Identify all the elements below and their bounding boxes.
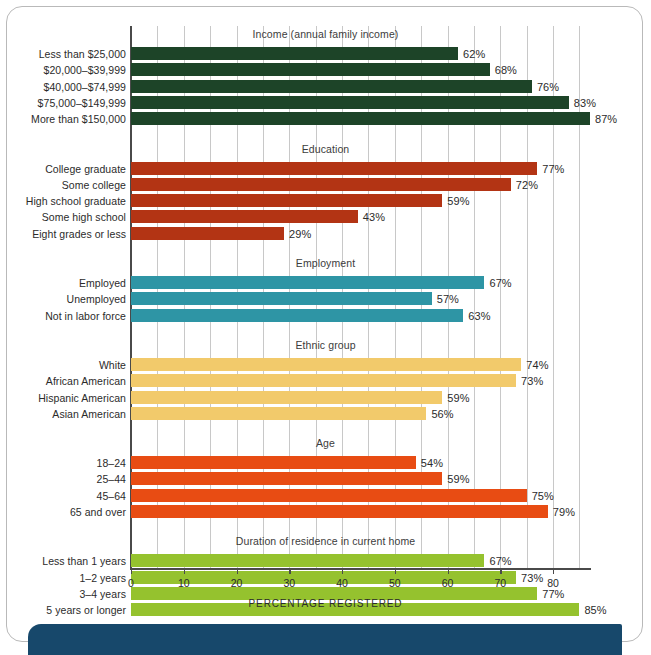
section-heading-employment: Employment <box>0 257 651 269</box>
category-label: Hispanic American <box>2 392 126 404</box>
bar <box>131 162 537 175</box>
category-label: $20,000–$39,999 <box>2 64 126 76</box>
x-tick-label: 80 <box>547 577 559 589</box>
x-tick-label: 40 <box>336 577 348 589</box>
bar-value-label: 54% <box>421 457 443 469</box>
category-label: Not in labor force <box>2 310 126 322</box>
section-heading-age: Age <box>0 437 651 449</box>
bar-value-label: 29% <box>289 228 311 240</box>
bar-value-label: 59% <box>447 392 469 404</box>
x-tick-mark <box>395 569 396 574</box>
bar <box>131 489 527 502</box>
category-label: $40,000–$74,999 <box>2 81 126 93</box>
bar <box>131 391 442 404</box>
category-label: Some college <box>2 179 126 191</box>
bar <box>131 358 521 371</box>
category-label: White <box>2 359 126 371</box>
bar <box>131 96 569 109</box>
x-tick-mark <box>448 569 449 574</box>
category-label: College graduate <box>2 163 126 175</box>
bar-value-label: 77% <box>542 163 564 175</box>
category-label: Eight grades or less <box>2 228 126 240</box>
bar <box>131 292 432 305</box>
x-tick-label: 30 <box>283 577 295 589</box>
category-label: 45–64 <box>2 490 126 502</box>
x-tick-label: 20 <box>231 577 243 589</box>
category-label: Less than 1 years <box>2 555 126 567</box>
bar <box>131 112 590 125</box>
bar <box>131 194 442 207</box>
x-axis-title: PERCENTAGE REGISTERED <box>0 598 651 609</box>
category-label: African American <box>2 375 126 387</box>
bar-value-label: 75% <box>532 490 554 502</box>
bar-value-label: 59% <box>447 195 469 207</box>
category-label: 25–44 <box>2 473 126 485</box>
category-label: High school graduate <box>2 195 126 207</box>
bar-value-label: 76% <box>537 81 559 93</box>
bar <box>131 210 358 223</box>
category-label: Asian American <box>2 408 126 420</box>
category-label-column: Less than $25,000$20,000–$39,999$40,000–… <box>0 0 126 580</box>
x-tick-label: 10 <box>178 577 190 589</box>
category-label: $75,000–$149,999 <box>2 97 126 109</box>
x-tick-mark <box>342 569 343 574</box>
section-heading-ethnic-group: Ethnic group <box>0 339 651 351</box>
bar-value-label: 74% <box>526 359 548 371</box>
bar-value-label: 83% <box>574 97 596 109</box>
bar-value-label: 62% <box>463 48 485 60</box>
bar-value-label: 68% <box>495 64 517 76</box>
bar-value-label: 72% <box>516 179 538 191</box>
category-label: Employed <box>2 277 126 289</box>
x-tick-label: 60 <box>442 577 454 589</box>
bar <box>131 276 484 289</box>
category-label: Unemployed <box>2 293 126 305</box>
bar <box>131 554 484 567</box>
x-tick-label: 50 <box>389 577 401 589</box>
category-label: 1–2 years <box>2 572 126 584</box>
bar <box>131 407 426 420</box>
x-tick-mark <box>553 569 554 574</box>
bar <box>131 374 516 387</box>
category-label: More than $150,000 <box>2 113 126 125</box>
section-heading-income-annual-family-income: Income (annual family income) <box>0 28 651 40</box>
x-tick-label: 70 <box>494 577 506 589</box>
category-label: Less than $25,000 <box>2 48 126 60</box>
bar <box>131 227 284 240</box>
bar-value-label: 56% <box>431 408 453 420</box>
section-heading-duration-of-residence-in-current-home: Duration of residence in current home <box>0 535 651 547</box>
x-tick-mark <box>131 569 132 574</box>
section-heading-education: Education <box>0 143 651 155</box>
category-label: Some high school <box>2 211 126 223</box>
x-tick-mark <box>500 569 501 574</box>
bar-value-label: 79% <box>553 506 575 518</box>
category-label: 65 and over <box>2 506 126 518</box>
bar-value-label: 43% <box>363 211 385 223</box>
category-label: 18–24 <box>2 457 126 469</box>
bar-value-label: 67% <box>489 555 511 567</box>
bar-value-label: 73% <box>521 375 543 387</box>
x-tick-mark <box>184 569 185 574</box>
bar-value-label: 59% <box>447 473 469 485</box>
x-axis-line <box>130 568 591 570</box>
bar-value-label: 67% <box>489 277 511 289</box>
bar-value-label: 87% <box>595 113 617 125</box>
bar-value-label: 63% <box>468 310 490 322</box>
bar <box>131 47 458 60</box>
bar <box>131 505 548 518</box>
bar <box>131 456 416 469</box>
bar <box>131 63 490 76</box>
bar <box>131 178 511 191</box>
bar-value-label: 57% <box>437 293 459 305</box>
bar <box>131 309 463 322</box>
x-tick-mark <box>289 569 290 574</box>
bar <box>131 472 442 485</box>
bar <box>131 80 532 93</box>
x-tick-mark <box>237 569 238 574</box>
bottom-banner <box>28 624 622 655</box>
bar-value-label: 73% <box>521 572 543 584</box>
x-tick-label: 0 <box>128 577 134 589</box>
